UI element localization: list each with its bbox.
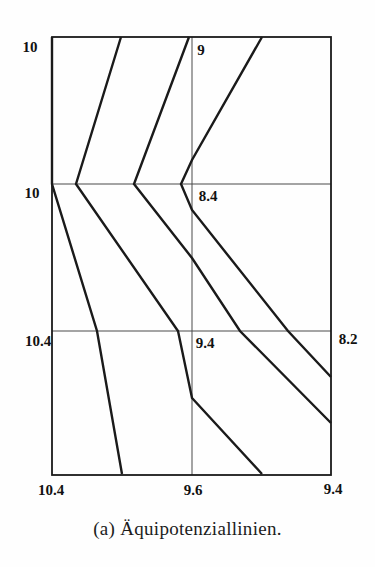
equipotential-line-2 (76, 37, 262, 474)
node-label: 10.4 (38, 483, 64, 498)
node-label: 9.4 (196, 336, 215, 351)
node-label: 8.4 (199, 189, 218, 204)
node-label: 9.6 (184, 483, 203, 498)
node-label: 10.4 (25, 334, 51, 349)
figure-caption: (a) Äquipotenziallinien. (0, 518, 375, 540)
equipotential-line-1 (52, 37, 122, 474)
node-label: 9.4 (324, 482, 343, 497)
equipotential-line-3 (134, 37, 331, 423)
figure: 109108.410.49.48.210.49.69.4 (a) Äquipot… (0, 0, 375, 567)
node-label: 8.2 (339, 332, 358, 347)
node-label: 10 (23, 40, 38, 55)
node-label: 10 (25, 186, 40, 201)
node-label: 9 (197, 43, 205, 58)
equipotential-line-4 (181, 37, 331, 377)
